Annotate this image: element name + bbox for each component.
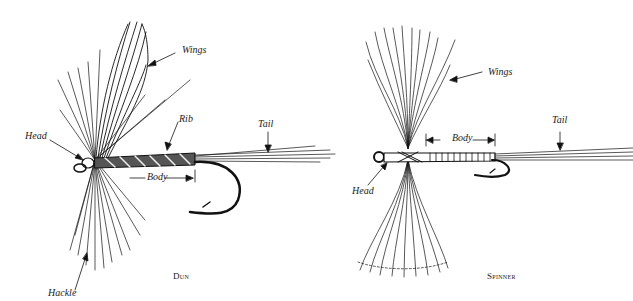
spinner-wings-lower bbox=[358, 160, 448, 277]
spinner-label-body: Body bbox=[452, 132, 473, 143]
dun-label-rib: Rib bbox=[179, 113, 193, 124]
dun-caption: Dun bbox=[173, 271, 189, 281]
dun-head bbox=[74, 164, 86, 172]
spinner-body bbox=[384, 152, 495, 162]
dun-label-head: Head bbox=[25, 130, 47, 141]
fly-diagram bbox=[0, 0, 633, 301]
dun-label-hackle: Hackle bbox=[48, 287, 76, 298]
dun-hook bbox=[190, 162, 240, 214]
spinner-label-head: Head bbox=[352, 185, 374, 196]
spinner-fly bbox=[358, 26, 633, 277]
dun-body bbox=[95, 153, 195, 168]
spinner-wings-upper bbox=[366, 26, 455, 148]
spinner-label-tail: Tail bbox=[552, 114, 567, 125]
spinner-caption: Spinner bbox=[487, 271, 516, 281]
dun-tail bbox=[195, 146, 335, 162]
dun-label-body: Body bbox=[147, 171, 168, 182]
dun-label-tail: Tail bbox=[258, 118, 273, 129]
dun-fly bbox=[50, 22, 335, 290]
spinner-head bbox=[374, 152, 384, 162]
spinner-hook bbox=[475, 160, 509, 177]
spinner-label-wings: Wings bbox=[488, 66, 512, 77]
spinner-tail bbox=[495, 148, 633, 160]
spinner-arrows bbox=[368, 72, 563, 185]
dun-label-wings: Wings bbox=[182, 44, 206, 55]
